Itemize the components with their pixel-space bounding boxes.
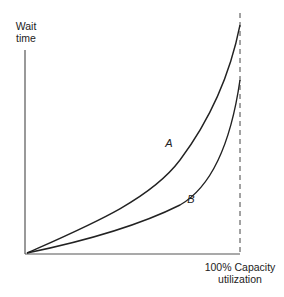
wait-time-diagram — [0, 0, 284, 297]
curve-b-label: B — [186, 193, 196, 205]
y-axis-label: Wait time — [10, 20, 42, 44]
x-axis-label-line2: utilization — [195, 273, 284, 285]
y-axis-label-line2: time — [10, 32, 42, 44]
x-axis-label-line1: 100% Capacity — [195, 261, 284, 273]
x-axis-label: 100% Capacity utilization — [195, 261, 284, 285]
curve-a-label: A — [164, 137, 174, 149]
y-axis-label-line1: Wait — [10, 20, 42, 32]
curve-a — [27, 25, 240, 253]
curve-b — [27, 80, 240, 253]
